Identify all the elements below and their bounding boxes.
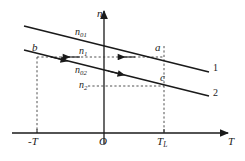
point-label-a: a bbox=[155, 42, 161, 53]
xtick-label-minus-T: -T bbox=[28, 136, 38, 147]
point-label-b: b bbox=[32, 42, 38, 53]
ylevel-n2: n2 bbox=[79, 80, 87, 90]
series-label-2: 2 bbox=[213, 88, 218, 98]
origin-label: O bbox=[99, 136, 107, 147]
figure-canvas: n T O -T TL n01 n1 n02 n2 a b c 1 2 bbox=[0, 0, 245, 161]
ylevel-n01: n01 bbox=[75, 27, 87, 37]
series-label-1: 1 bbox=[213, 63, 218, 73]
flow-arrow-right-inner bbox=[51, 57, 65, 61]
y-axis-label: n bbox=[97, 8, 103, 19]
xtick-TL-sub: L bbox=[163, 140, 167, 149]
xtick-label-TL: TL bbox=[157, 136, 167, 147]
series-line-1 bbox=[24, 26, 209, 72]
point-label-c: c bbox=[160, 72, 165, 83]
ylevel-n2-sub: 2 bbox=[84, 84, 87, 91]
x-axis-label: T bbox=[228, 136, 234, 147]
ylevel-n02: n02 bbox=[75, 65, 87, 75]
ylevel-n1-sub: 1 bbox=[84, 50, 87, 57]
ylevel-n02-sub: 02 bbox=[80, 69, 87, 76]
ylevel-n01-sub: 01 bbox=[80, 31, 87, 38]
ylevel-n1: n1 bbox=[79, 46, 87, 56]
flow-arrow-right-outer bbox=[108, 71, 122, 75]
